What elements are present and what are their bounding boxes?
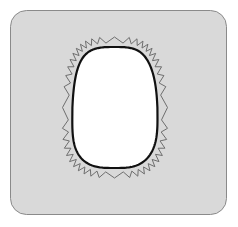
diagram-canvas xyxy=(0,0,238,227)
blob-shape xyxy=(72,47,157,168)
